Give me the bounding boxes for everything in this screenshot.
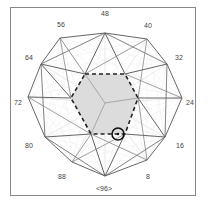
label-96: <96> <box>96 185 112 192</box>
star-edge <box>125 64 167 74</box>
label-64: 64 <box>25 54 33 61</box>
label-8: 8 <box>146 173 150 180</box>
label-32: 32 <box>175 54 183 61</box>
label-72: 72 <box>14 99 22 106</box>
highlight-dot <box>117 133 119 135</box>
outer-edge <box>147 137 165 160</box>
label-16: 16 <box>176 142 184 149</box>
label-88: 88 <box>58 173 66 180</box>
faint-chord <box>147 98 182 160</box>
star-edge <box>45 134 91 137</box>
outer-edge <box>28 97 45 137</box>
star-polygon-diagram: 48 40 32 24 16 8 <96> 88 80 72 64 56 <box>0 0 208 206</box>
inner-edge <box>91 134 147 160</box>
inner-edge <box>138 98 147 160</box>
outer-chord <box>45 137 105 176</box>
label-40: 40 <box>144 22 152 29</box>
outer-edge <box>72 162 105 176</box>
outer-edge <box>28 64 41 97</box>
label-24: 24 <box>186 99 194 106</box>
label-80: 80 <box>25 142 33 149</box>
outer-edge <box>165 98 182 137</box>
label-56: 56 <box>57 21 65 28</box>
outer-edge <box>60 33 105 38</box>
star-edge <box>41 64 85 74</box>
faint-chord <box>147 64 167 160</box>
star-edge <box>85 33 105 74</box>
outer-edge <box>147 39 167 64</box>
label-48: 48 <box>101 10 109 17</box>
